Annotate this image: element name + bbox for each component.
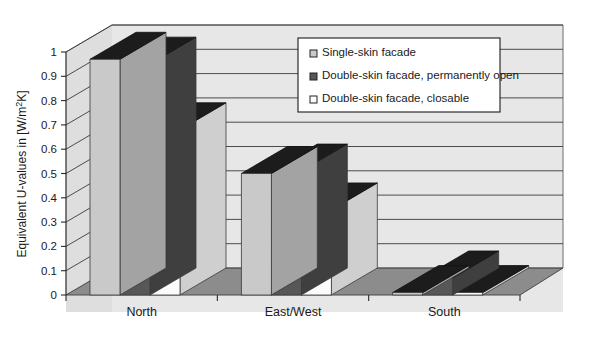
y-tick-group: 00.10.20.30.40.50.60.70.80.91 [41, 46, 66, 301]
y-axis-title: Equivalent U-values in [W/m2K] [14, 90, 29, 257]
bar-3d [90, 32, 166, 295]
y-axis: 00.10.20.30.40.50.60.70.80.91 [41, 46, 66, 301]
y-tick-label: 0.7 [41, 119, 57, 131]
legend-label: Double-skin facade, permanently open [322, 69, 519, 81]
y-tick-label: 0.9 [41, 70, 57, 82]
bar-front-face [241, 174, 271, 296]
bar-3d [241, 147, 317, 296]
legend-label: Double-skin facade, closable [322, 92, 469, 104]
y-tick-label: 0 [51, 289, 57, 301]
bar-front-face [453, 293, 483, 295]
y-tick-label: 0.5 [41, 168, 57, 180]
y-tick-label: 0.8 [41, 95, 57, 107]
category-label: South [428, 305, 461, 319]
y-tick-label: 0.3 [41, 216, 57, 228]
y-tick-label: 0.6 [41, 143, 57, 155]
bar-front-face [90, 59, 120, 295]
category-label: North [126, 305, 157, 319]
chart-container: 00.10.20.30.40.50.60.70.80.91 Equivalent… [0, 0, 589, 341]
legend-label: Single-skin facade [322, 46, 416, 58]
y-tick-label: 0.2 [41, 240, 57, 252]
legend-swatch-light-gray [310, 50, 317, 57]
chart-legend: Single-skin facadeDouble-skin facade, pe… [298, 38, 519, 112]
category-label: East/West [265, 305, 322, 319]
y-tick-label: 0.1 [41, 265, 57, 277]
y-tick-label: 0.4 [41, 192, 58, 204]
legend-swatch-white [310, 96, 317, 103]
bar-side-face [120, 32, 166, 295]
y-tick-label: 1 [51, 46, 57, 58]
bar-chart-3d: 00.10.20.30.40.50.60.70.80.91 Equivalent… [0, 0, 589, 341]
legend-swatch-dark-gray [310, 73, 317, 80]
bar-front-face [393, 293, 423, 295]
